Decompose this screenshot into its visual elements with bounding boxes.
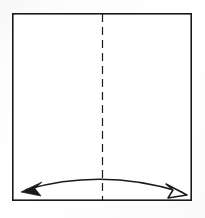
origami-diagram xyxy=(0,0,205,218)
diagram-canvas xyxy=(0,0,205,218)
